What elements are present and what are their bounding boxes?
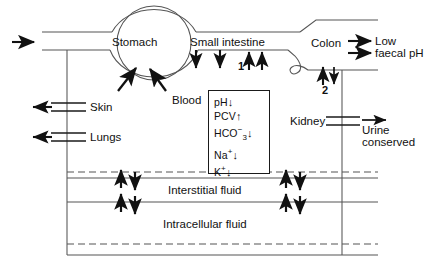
blood-change-ph: ↓	[228, 96, 234, 108]
blood-change-pcv: ↑	[236, 110, 242, 122]
stomach-secretion-arrows	[118, 68, 166, 91]
blood-row-bicarbonate: HCO−3↓	[214, 123, 269, 145]
lungs-barrier-icon	[51, 133, 86, 141]
stomach-label: Stomach	[112, 36, 157, 49]
blood-change-bicarbonate: ↓	[247, 127, 253, 139]
diagram-canvas: Stomach Small intestine 1 Colon 2 Low fa…	[0, 0, 434, 266]
site-one-marker: 1	[238, 60, 244, 73]
blood-change-sodium: ↓	[232, 149, 238, 161]
blood-analyte-sodium: Na	[214, 149, 228, 161]
colon-output-line2: faecal pH	[375, 47, 424, 60]
skin-barrier-icon	[51, 103, 86, 111]
lungs-label: Lungs	[90, 131, 121, 144]
interstitial-exchange-arrows-left	[121, 170, 135, 214]
small-intestine-secretion-arrows	[196, 50, 220, 68]
blood-label: Blood	[172, 94, 201, 107]
blood-values-box: pH↓ PCV↑ HCO−3↓ Na+↓ K+↓	[208, 90, 270, 174]
blood-row-potassium: K+↓	[214, 162, 269, 179]
blood-change-potassium: ↓	[226, 165, 232, 177]
site-two-marker: 2	[322, 84, 328, 97]
blood-analyte-ph: pH	[214, 96, 228, 108]
blood-analyte-pcv: PCV	[214, 110, 236, 122]
small-intestine-label: Small intestine	[190, 36, 265, 49]
intracellular-fluid-label: Intracellular fluid	[163, 218, 247, 231]
interstitial-fluid-label: Interstitial fluid	[168, 184, 242, 197]
small-intestine-absorption-arrows	[249, 52, 262, 70]
blood-row-sodium: Na+↓	[214, 145, 269, 162]
blood-row-pcv: PCV↑	[214, 109, 269, 123]
skin-label: Skin	[90, 101, 112, 114]
membrane-dashed-lines	[67, 172, 378, 244]
urine-output-line2: conserved	[362, 136, 415, 149]
blood-analyte-bicarbonate: HCO	[214, 127, 238, 139]
kidney-barrier-icon	[326, 117, 360, 125]
interstitial-exchange-arrows-right	[286, 170, 300, 214]
colon-label: Colon	[311, 37, 341, 50]
blood-row-ph: pH↓	[214, 95, 269, 109]
kidney-label: Kidney	[290, 115, 325, 128]
